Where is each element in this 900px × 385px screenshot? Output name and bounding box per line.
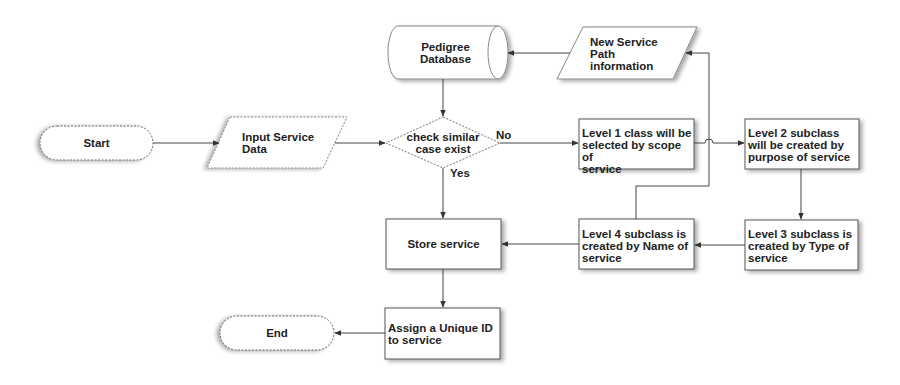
pedigree-label-line2: Database [393, 53, 498, 65]
edge-label-yes: Yes [450, 167, 470, 179]
store-label: Store service [386, 238, 501, 250]
input-label: Input Service Data [242, 131, 342, 155]
edge-level1-level2 [694, 139, 744, 143]
level2-label-line2: will be created by [748, 139, 860, 151]
assign-label-line1: Assign a Unique ID [388, 322, 500, 334]
level4-label-line2: created by Name of [582, 240, 694, 252]
assign-label-line2: to service [388, 334, 500, 346]
edge-label-no: No [496, 129, 511, 141]
level4-label: Level 4 subclass is created by Name of s… [582, 228, 694, 264]
newpath-label-line1: New Service [590, 36, 690, 48]
level1-label-line2: selected by scope of [582, 139, 694, 163]
level2-label-line1: Level 2 subclass [748, 127, 860, 139]
pedigree-label: Pedigree Database [393, 41, 498, 65]
level3-label: Level 3 subclass is created by Type of s… [748, 228, 860, 264]
level4-label-line1: Level 4 subclass is [582, 228, 694, 240]
level2-label: Level 2 subclass will be created by purp… [748, 127, 860, 163]
decision-label: check similar case exist [393, 131, 493, 155]
decision-label-line2: case exist [393, 143, 493, 155]
decision-label-line1: check similar [393, 131, 493, 143]
assign-label: Assign a Unique ID to service [388, 322, 500, 346]
start-label: Start [40, 137, 153, 149]
level1-label-line1: Level 1 class will be [582, 127, 694, 139]
pedigree-label-line1: Pedigree [393, 41, 498, 53]
level3-label-line3: service [748, 252, 860, 264]
level1-label-line3: service [582, 163, 694, 175]
newpath-label-line3: information [590, 60, 690, 72]
level3-label-line1: Level 3 subclass is [748, 228, 860, 240]
input-label-line2: Data [242, 143, 342, 155]
newpath-label: New Service Path information [590, 36, 690, 72]
level2-label-line3: purpose of service [748, 151, 860, 163]
newpath-label-line2: Path [590, 48, 690, 60]
level1-label: Level 1 class will be selected by scope … [582, 127, 694, 175]
end-label: End [220, 327, 334, 339]
level4-label-line3: service [582, 252, 694, 264]
input-label-line1: Input Service [242, 131, 342, 143]
level3-label-line2: created by Type of [748, 240, 860, 252]
